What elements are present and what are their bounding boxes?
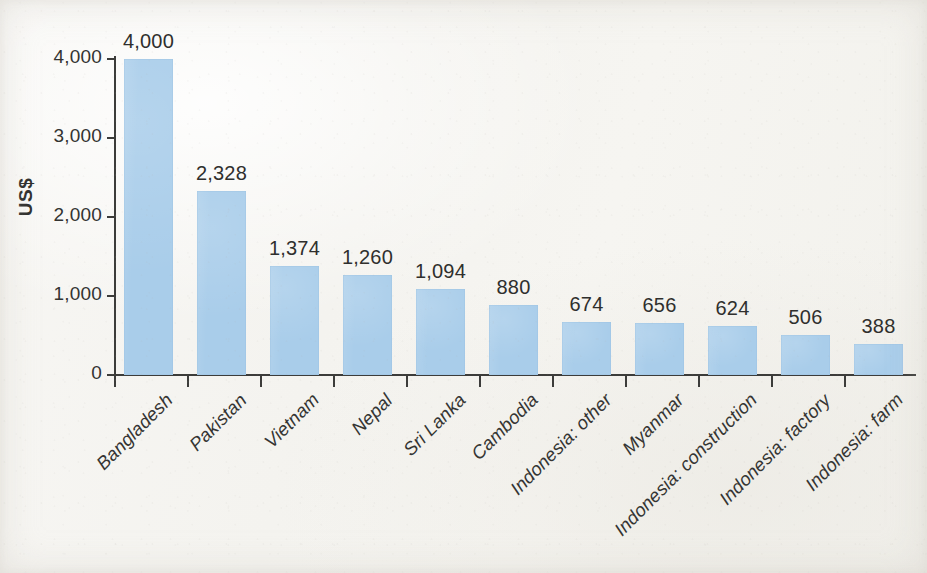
x-axis-label: Sri Lanka — [399, 389, 470, 460]
x-axis-label: Cambodia — [467, 389, 543, 465]
bar-value-label: 2,328 — [175, 162, 268, 185]
x-axis-tick — [114, 376, 116, 387]
x-axis-tick — [333, 376, 335, 387]
x-axis-label: Bangladesh — [92, 389, 177, 474]
x-axis-tick — [406, 376, 408, 387]
bar — [489, 305, 538, 375]
x-axis-label: Nepal — [347, 389, 397, 439]
y-axis-tick-label: 0 — [20, 362, 102, 384]
bar-value-label: 4,000 — [102, 30, 195, 53]
y-axis-tick-label: 2,000 — [20, 204, 102, 226]
x-axis-tick — [260, 376, 262, 387]
x-axis-tick — [479, 376, 481, 387]
x-axis-tick — [187, 376, 189, 387]
bar — [562, 322, 611, 375]
x-axis-label: Myanmar — [618, 389, 689, 460]
bar — [416, 289, 465, 375]
x-axis-tick — [771, 376, 773, 387]
bar — [781, 335, 830, 375]
y-axis-tick — [107, 295, 116, 297]
bar — [197, 191, 246, 375]
x-axis-tick — [698, 376, 700, 387]
y-axis-tick-label: 4,000 — [20, 46, 102, 68]
bar-value-label: 388 — [832, 315, 925, 338]
x-axis-label: Indonesia: construction — [610, 389, 762, 541]
x-axis-label: Pakistan — [185, 389, 251, 455]
y-axis-tick — [107, 137, 116, 139]
y-axis-tick — [107, 216, 116, 218]
y-axis-tick-label: 1,000 — [20, 283, 102, 305]
bar-chart: US$ 01,0002,0003,0004,000 4,0002,3281,37… — [0, 0, 927, 573]
y-axis-tick — [107, 58, 116, 60]
chart-page: US$ 01,0002,0003,0004,000 4,0002,3281,37… — [0, 0, 927, 573]
x-axis-tick — [625, 376, 627, 387]
bar — [270, 266, 319, 375]
bar — [635, 323, 684, 375]
y-axis-tick-label: 3,000 — [20, 125, 102, 147]
bar — [708, 326, 757, 375]
bar — [124, 59, 173, 375]
x-axis-tick — [552, 376, 554, 387]
bar — [854, 344, 903, 375]
x-axis-tick — [844, 376, 846, 387]
x-axis-label: Vietnam — [260, 389, 324, 453]
bar — [343, 275, 392, 375]
